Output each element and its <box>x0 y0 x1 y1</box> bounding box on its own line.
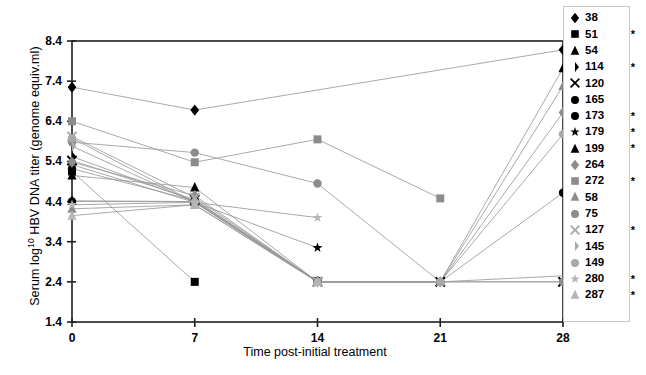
data-point-marker <box>314 135 322 143</box>
data-point-marker <box>190 104 199 115</box>
plot-area <box>0 0 646 375</box>
series-line <box>72 50 563 110</box>
data-point-marker <box>68 82 77 93</box>
legend-marker-icon <box>567 76 583 90</box>
data-point-marker <box>571 112 579 120</box>
legend-item-label: 165 <box>585 94 604 106</box>
data-point-marker <box>571 226 580 235</box>
series-line <box>72 205 318 282</box>
legend-item-label: 149 <box>585 257 604 269</box>
legend-item-label: 179 <box>585 126 604 138</box>
legend-item[interactable]: 287* <box>567 287 629 303</box>
data-point-marker <box>571 290 580 299</box>
data-point-marker <box>68 117 76 125</box>
legend-marker-icon <box>567 288 583 302</box>
legend-item-label: 51 <box>585 29 598 41</box>
legend-item[interactable]: 199* <box>567 140 629 156</box>
legend-item-asterisk: * <box>631 224 635 236</box>
legend-marker-icon <box>567 239 583 253</box>
legend-item-label: 120 <box>585 78 604 90</box>
legend-marker-icon <box>567 174 583 188</box>
data-point-marker <box>313 212 323 221</box>
legend-marker-icon <box>567 142 583 156</box>
data-point-marker <box>570 274 579 283</box>
legend-marker-icon <box>567 93 583 107</box>
legend-item-asterisk: * <box>631 61 635 73</box>
legend-marker-icon <box>567 190 583 204</box>
legend-item-label: 173 <box>585 110 604 122</box>
legend-item-label: 54 <box>585 45 598 57</box>
data-point-marker <box>575 62 579 72</box>
legend-item[interactable]: 120 <box>567 75 629 91</box>
legend-item-label: 272 <box>585 175 604 187</box>
legend-marker-icon <box>567 11 583 25</box>
legend-marker-icon <box>567 272 583 286</box>
data-point-marker <box>68 134 76 142</box>
legend-item[interactable]: 51* <box>567 26 629 42</box>
series-line <box>72 161 563 282</box>
data-point-marker <box>571 143 580 152</box>
legend-item[interactable]: 149 <box>567 254 629 270</box>
legend-item[interactable]: 54 <box>567 43 629 59</box>
legend-item-asterisk: * <box>631 126 635 138</box>
data-point-marker <box>570 127 579 136</box>
legend-item-asterisk: * <box>631 142 635 154</box>
data-point-marker <box>571 13 579 24</box>
legend[interactable]: 3851*54114*120165173*179*199*264272*5875… <box>563 6 630 322</box>
data-point-marker <box>571 96 579 104</box>
legend-item-asterisk: * <box>631 273 635 285</box>
legend-item[interactable]: 264 <box>567 157 629 173</box>
legend-marker-icon <box>567 27 583 41</box>
data-point-marker <box>436 278 444 286</box>
legend-item[interactable]: 38 <box>567 10 629 26</box>
legend-marker-icon <box>567 44 583 58</box>
data-point-marker <box>571 159 579 170</box>
legend-item-asterisk: * <box>631 28 635 40</box>
legend-marker-icon <box>567 223 583 237</box>
data-point-marker <box>191 148 199 156</box>
data-point-marker <box>571 177 579 185</box>
data-point-marker <box>436 194 444 202</box>
legend-item-label: 75 <box>585 208 598 220</box>
legend-item[interactable]: 58 <box>567 189 629 205</box>
legend-item[interactable]: 145 <box>567 238 629 254</box>
chart-figure: Serum log10 HBV DNA titer (genome equiv.… <box>0 0 646 375</box>
data-point-marker <box>571 46 580 55</box>
legend-item-label: 264 <box>585 159 604 171</box>
legend-marker-icon <box>567 125 583 139</box>
data-point-marker <box>575 241 579 251</box>
legend-item-asterisk: * <box>631 289 635 301</box>
legend-marker-icon <box>567 256 583 270</box>
data-point-marker <box>571 192 580 201</box>
data-point-marker <box>571 210 579 218</box>
data-point-marker <box>191 278 199 286</box>
legend-item-asterisk: * <box>631 175 635 187</box>
legend-item[interactable]: 75 <box>567 206 629 222</box>
legend-item-label: 145 <box>585 241 604 253</box>
legend-item-label: 127 <box>585 224 604 236</box>
legend-marker-icon <box>567 207 583 221</box>
series-line <box>72 142 563 282</box>
legend-item-asterisk: * <box>631 110 635 122</box>
legend-item[interactable]: 165 <box>567 91 629 107</box>
data-point-marker <box>313 179 321 187</box>
legend-item[interactable]: 173* <box>567 108 629 124</box>
legend-marker-icon <box>567 60 583 74</box>
series-line <box>72 121 440 198</box>
data-point-marker <box>571 259 579 267</box>
legend-item[interactable]: 272* <box>567 173 629 189</box>
legend-item[interactable]: 280* <box>567 271 629 287</box>
data-point-marker <box>191 158 199 166</box>
legend-item[interactable]: 114* <box>567 59 629 75</box>
legend-item[interactable]: 179* <box>567 124 629 140</box>
series-markers <box>67 44 568 287</box>
series-line <box>72 157 318 281</box>
data-point-marker <box>313 243 323 252</box>
series-line <box>72 134 563 282</box>
legend-item-label: 280 <box>585 273 604 285</box>
legend-item[interactable]: 127* <box>567 222 629 238</box>
legend-marker-icon <box>567 109 583 123</box>
legend-item-label: 38 <box>585 12 598 24</box>
legend-marker-icon <box>567 158 583 172</box>
legend-item-label: 287 <box>585 289 604 301</box>
